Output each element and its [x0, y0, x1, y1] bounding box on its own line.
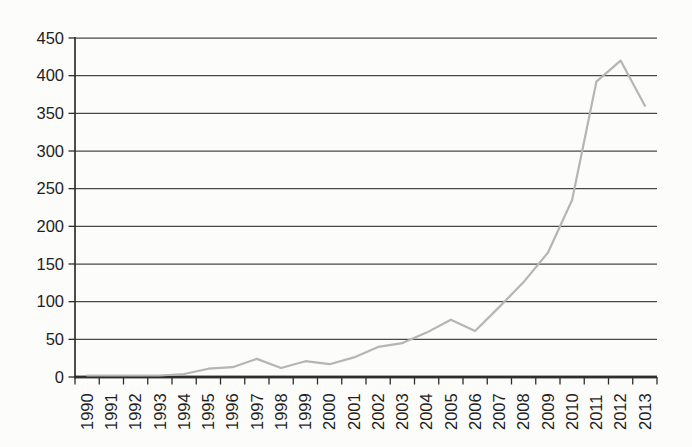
y-tick-label: 50 [46, 330, 64, 348]
x-tick-label: 2004 [417, 393, 435, 430]
x-tick-label: 2008 [514, 393, 532, 430]
y-tick-label: 250 [36, 179, 64, 197]
y-tick-label: 350 [36, 104, 64, 122]
x-tick-label: 2000 [320, 393, 338, 430]
y-tick-label: 200 [36, 217, 64, 235]
x-tick-label: 1995 [199, 393, 217, 430]
x-tick-label: 1998 [272, 393, 290, 430]
x-tick-label: 2010 [563, 393, 581, 430]
y-tick-label: 300 [36, 142, 64, 160]
y-tick-label: 150 [36, 255, 64, 273]
x-tick-label: 2012 [611, 393, 629, 430]
x-tick-label: 2009 [539, 393, 557, 430]
x-tick-label: 1992 [126, 393, 144, 430]
x-tick-label: 1996 [223, 393, 241, 430]
line-chart: 0501001502002503003504004501990199119921… [0, 0, 692, 447]
y-tick-label: 400 [36, 66, 64, 84]
x-tick-label: 1990 [78, 393, 96, 430]
data-series [87, 61, 645, 376]
x-tick-label: 2013 [636, 393, 654, 430]
chart-figure: 0501001502002503003504004501990199119921… [0, 0, 692, 447]
data-line [87, 61, 645, 376]
axis-labels: 0501001502002503003504004501990199119921… [36, 29, 653, 431]
x-tick-label: 1997 [248, 393, 266, 430]
x-tick-label: 2006 [466, 393, 484, 430]
x-tick-label: 1994 [175, 393, 193, 430]
y-tick-label: 100 [36, 292, 64, 310]
y-tick-label: 450 [36, 29, 64, 47]
x-tick-label: 2011 [587, 395, 605, 430]
x-tick-label: 2001 [345, 393, 363, 430]
x-tick-label: 1999 [296, 393, 314, 430]
x-tick-label: 2005 [442, 393, 460, 430]
x-tick-label: 1991 [102, 393, 120, 430]
y-tick-label: 0 [55, 368, 64, 386]
x-tick-label: 2003 [393, 393, 411, 430]
x-tick-label: 1993 [151, 393, 169, 430]
x-tick-label: 2002 [369, 393, 387, 430]
x-tick-label: 2007 [490, 393, 508, 430]
tick-marks [69, 38, 658, 385]
